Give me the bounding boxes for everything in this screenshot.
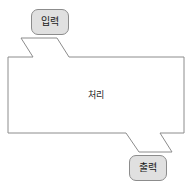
process-node-label: 처리 (0, 88, 193, 101)
output-node-label: 출력 (139, 163, 157, 173)
output-node: 출력 (129, 155, 167, 181)
input-node-label: 입력 (41, 17, 59, 27)
process-flow-diagram: 입력 처리 출력 (0, 0, 193, 192)
input-node: 입력 (31, 9, 69, 35)
